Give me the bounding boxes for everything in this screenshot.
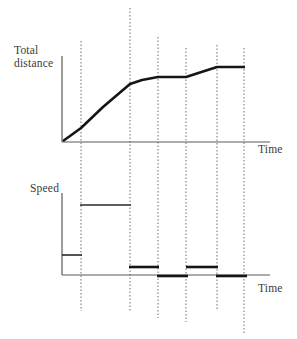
total-distance-chart (62, 56, 270, 142)
speed-chart (62, 193, 270, 276)
total-distance-label-line2: distance (14, 57, 53, 69)
time-axis-label-bottom: Time (258, 282, 283, 295)
total-distance-curve (63, 67, 245, 141)
event-marker-guides (81, 8, 244, 334)
speed-axis-label: Speed (30, 182, 59, 195)
velocity-distance-figure: Totaldistance Speed Time Time (0, 0, 297, 339)
total-distance-axis-label: Totaldistance (14, 44, 53, 69)
time-axis-label-top: Time (258, 143, 283, 156)
total-distance-label-line1: Total (14, 44, 38, 56)
